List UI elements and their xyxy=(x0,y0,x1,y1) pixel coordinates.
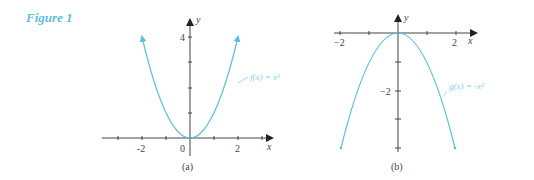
x-tick-neg2-a: -2 xyxy=(137,143,145,154)
y-tick-4: 4 xyxy=(180,32,185,43)
curve-f-right xyxy=(190,37,238,138)
x-label-a: x xyxy=(266,141,272,152)
chart-b: g(x) = -x² y x −2 2 −2 (b) xyxy=(334,12,484,173)
fn-label-a: f(x) = x² xyxy=(250,72,280,82)
x-tick-2-b: 2 xyxy=(452,37,457,48)
chart-a: f(x) = x² y x 4 -2 0 2 (a) xyxy=(102,14,280,173)
y-label-a: y xyxy=(195,14,201,25)
fn-label-b: g(x) = -x² xyxy=(449,81,484,91)
x-label-b: x xyxy=(467,35,473,46)
curve-g-end-left xyxy=(340,147,343,150)
x-tick-neg2-b: −2 xyxy=(334,37,345,48)
figure-canvas: f(x) = x² y x 4 -2 0 2 (a) g(x) = -x² y xyxy=(0,0,534,180)
panel-label-b: (b) xyxy=(391,161,403,173)
curve-g-end-right xyxy=(454,147,457,150)
fn-pointer-a xyxy=(238,77,248,83)
panel-label-a: (a) xyxy=(182,161,193,173)
curve-f xyxy=(142,37,190,138)
x-tick-0-a: 0 xyxy=(180,143,185,154)
x-tick-2-a: 2 xyxy=(235,143,240,154)
y-label-b: y xyxy=(403,12,409,23)
y-tick-neg2-b: −2 xyxy=(380,86,391,97)
fn-pointer-b xyxy=(444,91,447,96)
